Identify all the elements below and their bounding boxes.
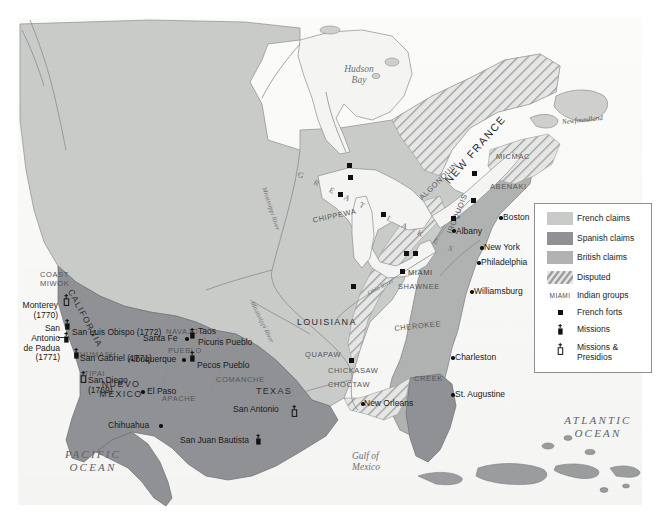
legend-row-indian-groups: MIAMI Indian groups bbox=[543, 290, 644, 301]
tribe-coast-miwok: COAST MIWOK bbox=[40, 271, 69, 288]
tribe-abenaki: ABENAKI bbox=[490, 183, 527, 192]
mission-marker bbox=[255, 434, 262, 445]
place-philadelphia: Philadelphia bbox=[481, 258, 527, 268]
legend-row-british-claims: British claims bbox=[543, 251, 644, 264]
french-fort-marker bbox=[381, 212, 386, 217]
mission-icon bbox=[543, 324, 577, 335]
mission-presidio-marker bbox=[291, 405, 298, 417]
tribe-micmac: MICMAC bbox=[496, 153, 530, 162]
legend-row-french-forts: French forts bbox=[543, 307, 644, 318]
legend-row-french-claims: French claims bbox=[543, 212, 644, 225]
legend-label-indian-groups: Indian groups bbox=[577, 290, 629, 301]
place-san-diego: San Diego (1769) bbox=[88, 376, 128, 396]
mission-marker bbox=[73, 348, 80, 359]
texas-label: TEXAS bbox=[256, 386, 292, 396]
pacific-ocean-label: PACIFIC OCEAN bbox=[38, 448, 148, 473]
tribe-choctaw: CHOCTAW bbox=[328, 381, 370, 390]
city-dot-albany bbox=[452, 229, 456, 233]
louisiana-label: LOUISIANA bbox=[297, 317, 357, 327]
legend-sample-miami: MIAMI bbox=[550, 292, 571, 299]
place-new-york: New York bbox=[484, 243, 520, 253]
swatch-british-claims-icon bbox=[543, 251, 577, 264]
city-dot-new-york bbox=[480, 246, 484, 250]
place-monterey: Monterey (1770) bbox=[0, 301, 58, 321]
legend-row-disputed: Disputed bbox=[543, 271, 644, 284]
city-dot-santa-fe bbox=[185, 337, 189, 341]
place-st-augustine: St. Augustine bbox=[455, 390, 505, 400]
legend-label-missions: Missions bbox=[577, 324, 610, 335]
city-dot-philadelphia bbox=[477, 261, 481, 265]
place-albuquerque: Albuquerque bbox=[128, 355, 176, 365]
mission-presidio-marker bbox=[63, 294, 70, 306]
place-san-antonio-de-padua: San Antonio de Padua (1771) bbox=[0, 324, 60, 363]
map-legend: French claims Spanish claims British cla… bbox=[534, 203, 652, 373]
tribe-creek: CREEK bbox=[414, 375, 443, 384]
legend-row-spanish-claims: Spanish claims bbox=[543, 232, 644, 245]
swatch-french-claims-icon bbox=[543, 212, 577, 225]
french-fort-marker bbox=[347, 163, 352, 168]
french-fort-marker bbox=[351, 284, 356, 289]
place-san-antonio: San Antonio bbox=[233, 405, 279, 415]
french-fort-marker bbox=[472, 171, 477, 176]
mission-marker bbox=[189, 328, 196, 339]
legend-label-french-forts: French forts bbox=[577, 307, 622, 318]
place-boston: Boston bbox=[503, 213, 529, 223]
city-dot-boston bbox=[499, 216, 503, 220]
city-dot-chihuahua bbox=[159, 424, 163, 428]
french-fort-marker bbox=[404, 251, 409, 256]
legend-row-missions-presidios: Missions & Presidios bbox=[543, 342, 644, 363]
place-williamsburg: Williamsburg bbox=[474, 287, 523, 297]
tribe-shawnee: SHAWNEE bbox=[398, 283, 440, 292]
french-fort-marker bbox=[348, 175, 353, 180]
french-fort-marker bbox=[338, 192, 343, 197]
french-fort-marker bbox=[400, 269, 405, 274]
french-fort-square-icon bbox=[543, 310, 577, 315]
city-dot-new-orleans bbox=[361, 402, 365, 406]
legend-row-missions: Missions bbox=[543, 324, 644, 335]
tribe-chickasaw: CHICKASAW bbox=[328, 367, 379, 376]
mission-marker bbox=[63, 332, 70, 343]
place-picuris-pueblo: Picuris Pueblo bbox=[198, 338, 252, 348]
swatch-disputed-hatch-icon bbox=[543, 271, 577, 284]
place-new-orleans: New Orleans bbox=[364, 399, 413, 409]
city-dot-williamsburg bbox=[470, 290, 474, 294]
place-santa-fe: Santa Fe bbox=[143, 334, 178, 344]
city-dot-el-paso bbox=[141, 390, 145, 394]
tribe-quapaw: QUAPAW bbox=[305, 351, 341, 360]
place-albany: Albany bbox=[456, 227, 482, 237]
place-chihuahua: Chihuahua bbox=[108, 421, 149, 431]
legend-label-missions-presidios: Missions & Presidios bbox=[577, 342, 644, 363]
legend-label-spanish-claims: Spanish claims bbox=[577, 233, 634, 244]
hudson-bay-label: Hudson Bay bbox=[333, 64, 385, 86]
place-taos: Taos bbox=[198, 327, 216, 337]
tribe-comanche: COMANCHE bbox=[216, 376, 265, 385]
historical-map: PACIFIC OCEAN ATLANTIC OCEAN Hudson Bay … bbox=[0, 0, 660, 523]
swatch-spanish-claims-icon bbox=[543, 232, 577, 245]
legend-label-disputed: Disputed bbox=[577, 272, 611, 283]
indian-group-sample-text: MIAMI bbox=[543, 292, 577, 299]
french-fort-marker bbox=[471, 198, 476, 203]
place-pecos-pueblo: Pecos Pueblo bbox=[197, 361, 249, 371]
mission-presidio-marker bbox=[80, 371, 87, 383]
french-fort-marker bbox=[451, 216, 456, 221]
city-dot-albuquerque bbox=[182, 358, 186, 362]
atlantic-ocean-label: ATLANTIC OCEAN bbox=[543, 414, 653, 439]
place-san-juan-bautista: San Juan Bautista bbox=[180, 436, 249, 446]
gulf-of-mexico-label: Gulf of Mexico bbox=[352, 451, 412, 473]
tribe-miami: MIAMI bbox=[408, 269, 433, 278]
city-dot-charleston bbox=[451, 356, 455, 360]
place-el-paso: El Paso bbox=[147, 387, 176, 397]
french-fort-marker bbox=[349, 358, 354, 363]
legend-label-british-claims: British claims bbox=[577, 252, 627, 263]
legend-label-french-claims: French claims bbox=[577, 213, 630, 224]
place-charleston: Charleston bbox=[455, 353, 496, 363]
mission-presidio-icon bbox=[543, 342, 577, 355]
mission-marker bbox=[64, 319, 71, 330]
mission-marker bbox=[189, 351, 196, 362]
french-fort-marker bbox=[413, 251, 418, 256]
city-dot-st-augustine bbox=[451, 393, 455, 397]
